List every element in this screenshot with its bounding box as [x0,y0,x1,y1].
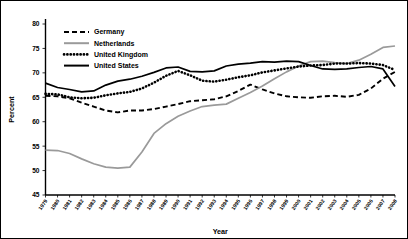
line-chart: 4550556065707580Percent19791980198119821… [1,1,408,239]
x-tick-label: 1997 [254,198,266,211]
x-tick-label: 2006 [362,198,374,211]
x-tick-label: 1999 [278,198,290,211]
y-tick-label: 55 [32,143,40,150]
x-tick-label: 2005 [350,198,362,211]
y-tick-label: 75 [32,45,40,52]
x-tick-label: 1984 [97,198,109,211]
x-tick-label: 1998 [266,198,278,211]
y-axis-title: Percent [7,96,16,123]
x-tick-label: 1989 [157,198,169,211]
x-tick-label: 1981 [61,198,73,211]
y-tick-label: 80 [32,20,40,27]
x-tick-label: 2008 [386,198,398,211]
y-tick-label: 70 [32,69,40,76]
x-tick-label: 2007 [374,198,386,211]
x-axis-title: Year [213,227,228,236]
x-tick-label: 1985 [109,198,121,211]
x-tick-label: 1995 [230,198,242,211]
x-tick-label: 1991 [182,198,194,211]
x-tick-label: 2001 [302,198,314,211]
x-tick-label: 1996 [242,198,254,211]
series-line-germany [46,72,396,113]
x-tick-label: 2004 [338,198,350,211]
x-tick-label: 1980 [49,198,61,211]
y-tick-label: 60 [32,118,40,125]
x-tick-label: 1988 [145,198,157,211]
legend-label-netherlands: Netherlands [94,40,135,47]
x-tick-label: 1986 [121,198,133,211]
x-tick-label: 1992 [194,198,206,211]
x-tick-label: 1987 [133,198,145,211]
x-tick-label: 1979 [37,198,49,211]
y-tick-label: 65 [32,94,40,101]
x-tick-label: 1993 [206,198,218,211]
x-tick-label: 1982 [73,198,85,211]
y-tick-label: 45 [32,191,40,198]
x-tick-label: 1990 [170,198,182,211]
chart-plot-area: 4550556065707580Percent19791980198119821… [1,1,408,239]
legend-label-germany: Germany [94,28,124,36]
x-tick-label: 1994 [218,198,230,211]
x-tick-label: 2003 [326,198,338,211]
chart-figure: 4550556065707580Percent19791980198119821… [0,0,408,239]
x-tick-label: 1983 [85,198,97,211]
legend-label-united-kingdom: United Kingdom [94,51,148,59]
y-tick-label: 50 [32,167,40,174]
x-tick-label: 2000 [290,198,302,211]
legend-label-united-states: United States [94,62,139,69]
x-tick-label: 2002 [314,198,326,211]
